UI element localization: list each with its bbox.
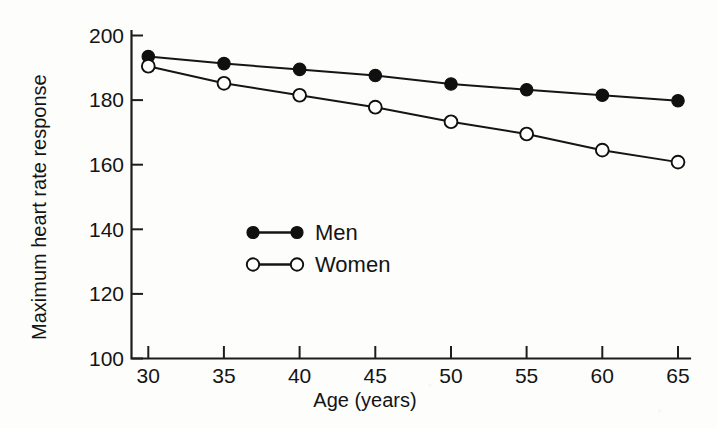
y-tick-label-160: 160	[89, 153, 124, 176]
y-tick-label-200: 200	[89, 24, 124, 47]
legend-marker-women-left	[247, 258, 259, 270]
chart-figure: 200 180 160 140 120 100 Maximum heart ra…	[0, 0, 717, 428]
legend-label-men: Men	[315, 220, 358, 245]
data-point-men-45	[369, 69, 381, 81]
y-tick-label-140: 140	[89, 218, 124, 241]
data-point-men-65	[672, 95, 684, 107]
y-tick-label-180: 180	[89, 88, 124, 111]
legend-label-women: Women	[315, 252, 390, 277]
x-tick-label-30: 30	[137, 364, 160, 387]
x-tick-label-50: 50	[439, 364, 462, 387]
data-point-men-55	[520, 84, 532, 96]
data-point-women-35	[218, 77, 231, 90]
y-tick-label-100: 100	[89, 347, 124, 370]
data-point-women-40	[293, 89, 306, 102]
x-tick-label-35: 35	[212, 364, 235, 387]
data-point-women-50	[445, 115, 458, 128]
data-point-women-45	[369, 101, 382, 114]
y-tick-label-120: 120	[89, 282, 124, 305]
data-point-men-40	[293, 63, 305, 75]
y-axis-title: Maximum heart rate response	[28, 74, 50, 340]
data-point-men-50	[445, 78, 457, 90]
data-point-women-60	[596, 144, 609, 157]
legend-marker-men-left	[247, 227, 259, 239]
x-tick-label-65: 65	[666, 364, 689, 387]
data-point-women-30	[142, 60, 155, 73]
data-point-men-60	[596, 89, 608, 101]
line-chart: 200 180 160 140 120 100 Maximum heart ra…	[0, 0, 717, 428]
x-tick-label-45: 45	[364, 364, 387, 387]
x-axis-title: Age (years)	[313, 389, 416, 411]
legend-marker-men-right	[291, 227, 303, 239]
x-tick-label-55: 55	[515, 364, 538, 387]
data-point-women-65	[672, 156, 685, 169]
x-tick-label-40: 40	[288, 364, 311, 387]
data-point-men-35	[218, 57, 230, 69]
data-point-women-55	[520, 128, 533, 141]
x-tick-label-60: 60	[591, 364, 614, 387]
legend-marker-women-right	[291, 258, 303, 270]
